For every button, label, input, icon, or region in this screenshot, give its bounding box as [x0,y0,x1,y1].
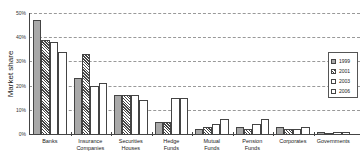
y-axis-label: Market share [6,44,15,104]
legend-label: 1999 [339,58,350,64]
legend-item: 2006 [331,86,355,96]
x-tick [71,132,72,136]
x-tick [273,132,274,136]
gridline [29,13,360,14]
bar [261,119,269,134]
legend-label: 2003 [339,78,350,84]
gridline [29,61,360,62]
bar [171,98,179,134]
y-tick-label: 30% [4,58,26,64]
bar [220,119,228,134]
bar [131,95,139,134]
bar [212,124,220,134]
y-tick-label: 10% [4,107,26,113]
legend-swatch [331,89,336,94]
gridline [29,37,360,38]
x-axis [29,134,360,135]
x-tick [152,132,153,136]
bar [90,86,98,134]
legend: 1999200120032006 [328,52,358,98]
bar [50,42,58,134]
legend-item: 2003 [331,76,355,86]
bar [155,122,163,134]
bar [122,95,130,134]
legend-swatch [331,59,336,64]
legend-label: 2001 [339,68,350,74]
legend-swatch [331,69,336,74]
bar [33,20,41,134]
bar [163,122,171,134]
bar [114,95,122,134]
bar [236,127,244,134]
x-category-label: Banks [28,138,72,145]
bar [41,40,49,134]
bar [99,83,107,134]
x-tick [111,132,112,136]
bar-chart: Market share 0%10%20%30%40%50% BanksInsu… [0,0,360,160]
x-category-label: Corporates [271,138,315,145]
bar [276,127,284,134]
legend-item: 2001 [331,66,355,76]
legend-label: 2006 [339,88,350,94]
bar [58,52,66,134]
x-tick [192,132,193,136]
x-category-label: InsuranceCompanies [68,138,112,152]
x-category-label: Governments [311,138,355,145]
bar [180,98,188,134]
y-axis [29,13,30,134]
x-category-label: SecuritiesHouses [109,138,153,152]
bar [252,124,260,134]
y-tick-label: 20% [4,83,26,89]
x-tick [233,132,234,136]
y-tick-label: 40% [4,34,26,40]
legend-swatch [331,79,336,84]
x-category-label: HedgeFunds [149,138,193,152]
x-category-label: MutualFunds [190,138,234,152]
bar [203,127,211,134]
bar [139,100,147,134]
y-tick-label: 50% [4,10,26,16]
x-category-label: PensionFunds [230,138,274,152]
y-tick-label: 0% [4,131,26,137]
bar [301,127,309,134]
legend-item: 1999 [331,56,355,66]
bar [74,78,82,134]
bar [82,54,90,134]
x-tick [314,132,315,136]
